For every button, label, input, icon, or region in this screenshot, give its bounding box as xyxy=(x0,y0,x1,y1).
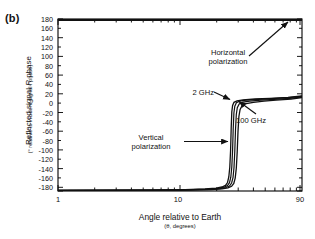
curve-vertical-5ghz xyxy=(58,96,302,190)
arrow-freq-low xyxy=(214,92,230,100)
curve-vertical-20ghz xyxy=(58,97,302,191)
arrow-horizontal-polarization xyxy=(249,22,288,56)
x-ticks xyxy=(58,19,300,191)
y-major-ticks xyxy=(58,19,302,191)
figure-panel: (b) Reflected signal R phase (° relative… xyxy=(0,0,315,239)
plot-svg xyxy=(0,0,315,239)
curve-vertical-2ghz xyxy=(58,96,302,190)
curve-vertical-100ghz xyxy=(58,98,302,191)
plot-frame xyxy=(58,19,302,191)
data-curves xyxy=(58,20,302,191)
